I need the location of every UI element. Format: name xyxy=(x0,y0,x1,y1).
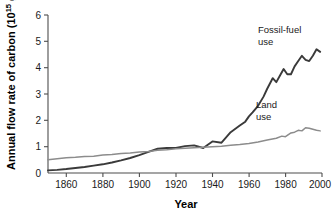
y-tick-label-4: 4 xyxy=(35,62,41,73)
y-axis-title-exponent: 15 xyxy=(4,4,13,12)
y-tick-label-0: 0 xyxy=(35,168,41,179)
x-tick-label-1940: 1940 xyxy=(201,179,224,190)
carbon-flow-line-chart: Annual flow rate of carbon (1015 g) 6 5 … xyxy=(0,0,332,221)
x-tick-label-1960: 1960 xyxy=(238,179,261,190)
chart-figure: Annual flow rate of carbon (1015 g) 6 5 … xyxy=(0,0,332,221)
svg-text:Annual flow rate of carbon (10: Annual flow rate of carbon (1015 g) xyxy=(4,0,17,170)
y-tick-label-3: 3 xyxy=(35,89,41,100)
land-use-label: Land use xyxy=(256,99,277,122)
land-use-label-line2: use xyxy=(256,111,271,122)
x-tick-label-1880: 1880 xyxy=(92,179,115,190)
y-tick-label-6: 6 xyxy=(35,10,41,21)
x-tick-label-1980: 1980 xyxy=(274,179,297,190)
fossil-fuel-use-label: Fossil-fuel use xyxy=(258,24,301,47)
y-tick-label-5: 5 xyxy=(35,36,41,47)
x-tick-label-2000: 2000 xyxy=(309,179,332,190)
y-axis-title-text: Annual flow rate of carbon (10 xyxy=(5,12,17,170)
y-axis-title-suffix: g) xyxy=(5,0,17,4)
y-tick-label-1: 1 xyxy=(35,141,41,152)
x-tick-label-1860: 1860 xyxy=(55,179,78,190)
x-tick-label-1920: 1920 xyxy=(165,179,188,190)
y-axis-title: Annual flow rate of carbon (1015 g) xyxy=(4,0,17,170)
fossil-fuel-use-label-line1: Fossil-fuel xyxy=(258,24,301,35)
x-axis-ticks: 1860 1880 1900 1920 1940 1960 1980 2000 xyxy=(55,173,331,190)
fossil-fuel-use-label-line2: use xyxy=(258,36,273,47)
x-tick-label-1900: 1900 xyxy=(128,179,151,190)
series-line-fossil-fuel-use xyxy=(48,49,320,170)
x-axis-title: Year xyxy=(174,198,198,210)
series-line-land-use xyxy=(48,128,320,160)
y-axis-ticks: 6 5 4 3 2 1 0 xyxy=(35,10,48,179)
land-use-label-line1: Land xyxy=(256,99,277,110)
y-tick-label-2: 2 xyxy=(35,115,41,126)
